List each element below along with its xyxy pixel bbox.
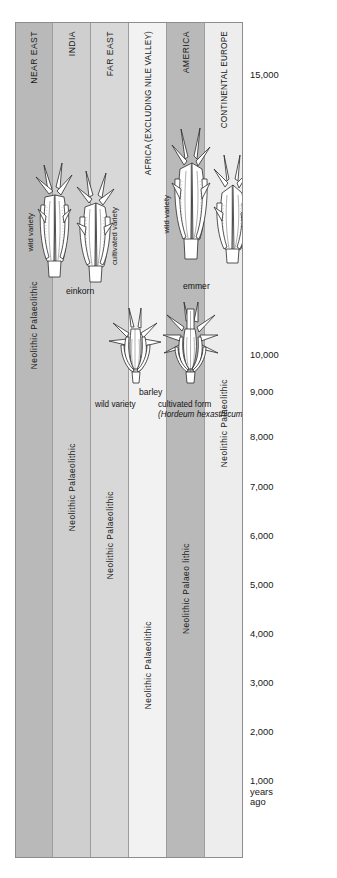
barley-wild-variety-label: wild variety <box>95 400 136 410</box>
axis-tick-7000: 7,000 <box>250 482 273 493</box>
axis-tick-3000: 3,000 <box>250 678 273 689</box>
barley-cultivated-spikelet-drawing <box>161 301 221 387</box>
einkorn-crop-name: einkorn <box>66 286 94 296</box>
emmer-wild-spikelet-drawing <box>168 127 214 267</box>
column-far-east: FAR EAST Neolithic Palaeolithic <box>91 23 129 857</box>
barley-cultivated-species-name: (Hordeum hexasthicum) <box>158 410 243 419</box>
barley-cultivated-form-label: cultivated form (Hordeum hexasthicum) <box>158 400 243 420</box>
column-india: INDIA Neolithic Palaeolithic <box>53 23 91 857</box>
einkorn-cultivated-variety-label: cultivated variety <box>110 207 119 265</box>
column-header-continental-europe: CONTINENTAL EUROPE <box>219 31 228 128</box>
column-header-africa: AFRICA (EXCLUDING NILE VALLEY) <box>143 31 152 175</box>
emmer-wild-variety-label: wild variety <box>162 195 171 234</box>
column-header-far-east: FAR EAST <box>105 31 115 76</box>
einkorn-wild-spikelet-drawing <box>32 161 76 283</box>
column-near-east: NEAR EAST Neolithic Palaeolithic <box>16 23 53 857</box>
axis-tick-8000: 8,000 <box>250 432 273 443</box>
axis-unit-years: years <box>250 786 273 797</box>
era-label-far-east: Neolithic Palaeolithic <box>105 491 115 579</box>
axis-tick-1000-value: 1,000 <box>250 775 273 786</box>
era-label-continental-europe: Neolithic Palaeolithic <box>219 379 229 467</box>
axis-tick-4000: 4,000 <box>250 629 273 640</box>
axis-tick-2000: 2,000 <box>250 727 273 738</box>
column-africa: AFRICA (EXCLUDING NILE VALLEY) Neolithic… <box>129 23 167 857</box>
axis-tick-6000: 6,000 <box>250 531 273 542</box>
emmer-crop-name: emmer <box>183 281 210 291</box>
axis-tick-15000: 15,000 <box>250 70 279 81</box>
era-label-america: Neolithic Palaeo lithic <box>181 543 191 634</box>
axis-tick-9000: 9,000 <box>250 387 273 398</box>
emmer-cultivated-spikelet-drawing <box>209 153 243 269</box>
column-header-india: INDIA <box>67 31 77 56</box>
axis-tick-5000: 5,000 <box>250 580 273 591</box>
column-header-near-east: NEAR EAST <box>29 31 39 84</box>
era-label-india: Neolithic Palaeolithic <box>67 443 77 531</box>
axis-tick-10000: 10,000 <box>250 350 279 361</box>
barley-cultivated-form-line1: cultivated form <box>158 400 211 409</box>
axis-tick-1000-years-ago: 1,000 years ago <box>250 776 273 808</box>
emmer-cultivated-variety-label: cultivated variety <box>243 203 244 261</box>
einkorn-wild-variety-label: wild variety <box>26 213 35 252</box>
time-axis: 15,000 10,000 9,000 8,000 7,000 6,000 5,… <box>250 0 337 878</box>
column-header-america: AMERICA <box>181 31 191 73</box>
barley-wild-spikelet-drawing <box>107 307 163 387</box>
plot-frame: NEAR EAST Neolithic Palaeolithic INDIA N… <box>15 22 243 858</box>
era-label-near-east: Neolithic Palaeolithic <box>29 281 39 369</box>
axis-unit-ago: ago <box>250 796 266 807</box>
barley-crop-name: barley <box>139 387 162 397</box>
cereal-domestication-timeline-chart: NEAR EAST Neolithic Palaeolithic INDIA N… <box>0 0 337 878</box>
era-label-africa: Neolithic Palaeolithic <box>143 621 153 709</box>
